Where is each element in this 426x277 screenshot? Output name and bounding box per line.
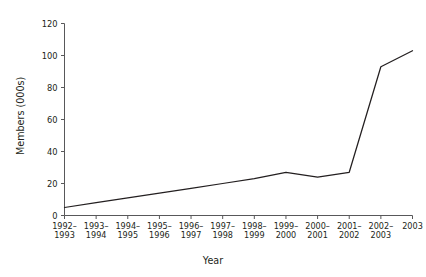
x-tick-label: 1997–1998	[210, 221, 235, 241]
y-tick-label: 0	[52, 211, 57, 221]
y-tick-label: 40	[47, 147, 58, 157]
chart-container: 020406080100120 Members (000s) 1992–1993…	[0, 0, 426, 277]
line-chart: 020406080100120 Members (000s) 1992–1993…	[0, 0, 426, 277]
y-axis-title: Members (000s)	[15, 77, 26, 155]
x-tick-label: 1996–1997	[179, 221, 204, 241]
y-tick-label: 60	[47, 115, 58, 125]
y-tick-label: 80	[47, 83, 58, 93]
x-tick-label: 2000–2001	[305, 221, 330, 241]
x-tick-label: 1998–1999	[242, 221, 267, 241]
x-tick-label: 1993–1994	[84, 221, 109, 241]
y-tick-label: 120	[42, 19, 58, 29]
y-tick-label: 20	[47, 179, 58, 189]
x-tick-label: 1995–1996	[147, 221, 172, 241]
x-tick-label: 1999–2000	[274, 221, 299, 241]
x-tick-label: 1994–1995	[115, 221, 140, 241]
x-tick-label: 2001–2002	[337, 221, 362, 241]
x-axis-title: Year	[202, 255, 223, 266]
x-tick-label: 2003	[402, 221, 423, 231]
x-tick-label: 2002–2003	[369, 221, 394, 241]
x-tick-label: 1992–1993	[52, 221, 77, 241]
y-tick-label: 100	[42, 51, 58, 61]
